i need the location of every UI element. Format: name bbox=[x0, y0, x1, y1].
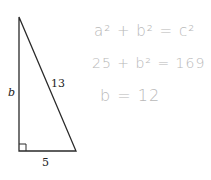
hypotenuse-label: 13 bbox=[51, 77, 65, 90]
right-triangle bbox=[19, 17, 76, 151]
equation-substitution: 25 + b² = 169 bbox=[92, 55, 205, 71]
equation-result: b = 12 bbox=[100, 86, 160, 105]
equation-pythagorean: a² + b² = c² bbox=[94, 22, 195, 40]
base-label: 5 bbox=[42, 156, 49, 169]
side-b-label: b bbox=[8, 86, 15, 99]
right-angle-marker bbox=[19, 144, 26, 151]
